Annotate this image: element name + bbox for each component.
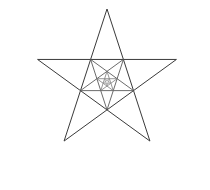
pentagram-fractal-canvas: [0, 0, 210, 190]
figure-background: [0, 0, 210, 190]
fractal-figure: [0, 0, 210, 190]
